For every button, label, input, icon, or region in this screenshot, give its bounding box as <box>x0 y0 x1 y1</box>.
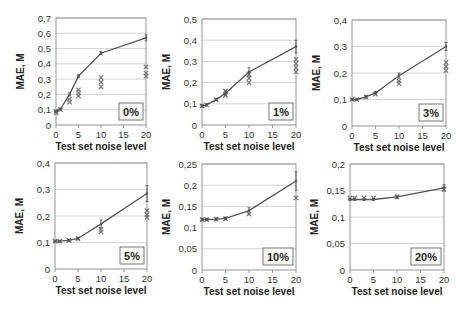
y-tick-label: 0,4 <box>334 15 347 26</box>
line-point <box>363 198 366 201</box>
data-marker <box>99 80 103 84</box>
subplot-5pct: 00,10,20,30,405101520Test set noise leve… <box>14 158 152 297</box>
y-tick-label: 0,3 <box>184 56 197 67</box>
line-point <box>445 45 448 48</box>
line-point <box>349 198 352 201</box>
panel-tag: 5% <box>124 250 140 262</box>
x-tick-label: 20 <box>439 274 450 285</box>
panel-tag: 3% <box>423 107 439 119</box>
x-tick-label: 10 <box>96 273 107 284</box>
y-tick-label: 0,3 <box>38 74 51 85</box>
chart-grid: 00,10,20,30,40,50,60,705101520Test set n… <box>0 0 464 313</box>
y-tick-label: 0,5 <box>184 14 197 25</box>
y-tick-label: 0 <box>46 120 51 131</box>
x-tick-label: 5 <box>223 129 228 140</box>
x-axis-label: Test set noise level <box>352 286 443 297</box>
x-tick-label: 5 <box>373 130 378 141</box>
x-tick-label: 5 <box>75 273 80 284</box>
subplot-20pct: 00,050,10,150,205101520Test set noise le… <box>309 159 449 298</box>
x-tick-label: 15 <box>119 273 130 284</box>
x-tick-label: 0 <box>53 129 58 140</box>
y-axis-label: MAE, M <box>311 55 322 91</box>
line-point <box>443 187 446 190</box>
x-tick-label: 15 <box>415 274 426 285</box>
line-point <box>396 196 399 199</box>
y-tick-label: 0 <box>192 265 197 276</box>
y-tick-label: 0,3 <box>37 184 50 195</box>
line-point <box>398 74 401 77</box>
x-tick-label: 10 <box>392 274 403 285</box>
y-tick-label: 0,05 <box>327 238 346 249</box>
y-tick-label: 0,3 <box>334 41 347 52</box>
y-axis-label: MAE, M <box>14 198 25 234</box>
y-tick-label: 0,1 <box>184 98 197 109</box>
x-tick-label: 0 <box>349 130 354 141</box>
y-tick-label: 0,1 <box>184 222 197 233</box>
data-marker <box>76 88 80 92</box>
line-point <box>248 209 251 212</box>
line-point <box>215 218 218 221</box>
line-point <box>201 105 204 108</box>
line-point <box>355 98 358 101</box>
subplot-3pct: 00,10,20,30,405101520Test set noise leve… <box>311 15 451 154</box>
y-tick-label: 0,2 <box>334 68 347 79</box>
y-tick-label: 0,5 <box>38 43 51 54</box>
y-tick-label: 0,2 <box>37 211 50 222</box>
y-tick-label: 0,15 <box>327 185 346 196</box>
line-point <box>205 218 208 221</box>
y-tick-label: 0,1 <box>334 94 347 105</box>
x-tick-label: 0 <box>199 274 204 285</box>
y-tick-label: 0,1 <box>37 237 50 248</box>
x-tick-label: 15 <box>417 130 428 141</box>
x-tick-label: 0 <box>199 129 204 140</box>
y-axis-label: MAE, M <box>309 199 320 235</box>
x-tick-label: 20 <box>291 129 302 140</box>
x-axis-label: Test set noise level <box>204 286 295 297</box>
panel-tag: 1% <box>273 106 289 118</box>
line-point <box>100 52 103 55</box>
y-axis-label: MAE, M <box>161 54 172 90</box>
line-point <box>68 239 71 242</box>
y-tick-label: 0,6 <box>38 28 51 39</box>
y-axis-label: MAE, M <box>15 53 26 89</box>
line-point <box>224 92 227 95</box>
line-point <box>100 223 103 226</box>
x-tick-label: 15 <box>118 129 129 140</box>
y-tick-label: 0,25 <box>179 159 198 170</box>
y-tick-label: 0 <box>340 265 345 276</box>
x-axis-label: Test set noise level <box>354 142 445 153</box>
line-point <box>58 240 61 243</box>
line-point <box>295 45 298 48</box>
x-tick-label: 5 <box>223 274 228 285</box>
line-point <box>353 198 356 201</box>
line-point <box>54 240 57 243</box>
line-point <box>77 75 80 78</box>
y-tick-label: 0 <box>45 264 50 275</box>
y-tick-label: 0,15 <box>179 201 198 212</box>
y-tick-label: 0,1 <box>38 104 51 115</box>
x-tick-label: 20 <box>441 130 452 141</box>
line-point <box>365 96 368 99</box>
x-tick-label: 0 <box>52 273 57 284</box>
y-tick-label: 0 <box>342 121 347 132</box>
y-tick-label: 0,2 <box>332 159 345 170</box>
x-axis-label: Test set noise level <box>56 141 147 152</box>
line-point <box>374 92 377 95</box>
y-tick-label: 0,05 <box>179 243 198 254</box>
x-tick-label: 5 <box>371 274 376 285</box>
y-tick-label: 0,2 <box>184 180 197 191</box>
y-tick-label: 0,7 <box>38 13 51 24</box>
x-tick-label: 15 <box>267 274 278 285</box>
subplot-1pct: 00,10,20,30,40,505101520Test set noise l… <box>161 14 301 153</box>
x-tick-label: 20 <box>291 274 302 285</box>
line-point <box>295 180 298 183</box>
line-point <box>205 104 208 107</box>
y-tick-label: 0,1 <box>332 212 345 223</box>
line-point <box>59 108 62 111</box>
line-point <box>55 110 58 113</box>
y-tick-label: 0 <box>192 120 197 131</box>
x-tick-label: 0 <box>347 274 352 285</box>
line-point <box>372 198 375 201</box>
x-tick-label: 10 <box>244 129 255 140</box>
subplot-10pct: 00,050,10,150,20,2505101520Test set nois… <box>161 159 301 298</box>
